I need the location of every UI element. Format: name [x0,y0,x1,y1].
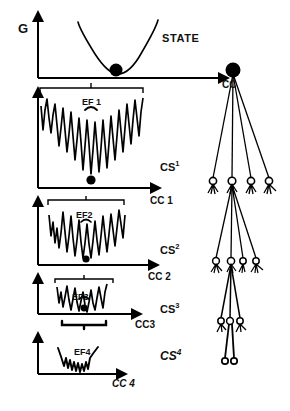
tree-node [227,318,234,325]
tree-node [208,177,218,194]
panel-3-span-bracket-bottom [62,321,106,329]
energy-label-ef4: EF4 [74,348,91,357]
tree-node [239,258,246,273]
panel-1-ef-arrow-icon [85,107,97,110]
panel-2-state-ball [82,255,89,262]
cs2-superscript: 2 [175,242,179,251]
y-axis-label-g: G [18,22,28,35]
tree-node [264,177,276,194]
x-axis-label-cc4: CC 4 [112,379,135,389]
x-axis-label-cc: CC [222,80,236,90]
energy-label-ef2: EF2 [76,211,93,220]
panel-3-state-ball [81,305,88,312]
substate-label-cs4: CS4 [160,349,181,362]
tree-edges-level-3 [225,324,234,358]
cs3-superscript: 3 [175,301,179,310]
tree-level-4-nodes [222,358,237,364]
tree-node [217,318,226,332]
cs2-base: CS [160,244,175,256]
x-axis-label-cc2: CC 2 [148,272,171,282]
panel-cs2 [38,196,150,265]
substate-label-cs2: CS2 [160,243,179,256]
tree-node [231,358,237,364]
panel-state-parabola [38,20,220,78]
tree-node [236,318,246,332]
energy-landscape-figure [0,0,290,411]
tree-root-node [226,63,241,78]
substate-label-cs3: CS3 [160,302,179,315]
panel-cs4 [38,341,118,374]
substate-tree [208,63,276,365]
x-axis-label-cc1: CC 1 [150,196,173,206]
tree-edges-level-2 [221,265,240,318]
energy-label-ef3: EF3 [72,293,89,302]
tree-node [251,258,263,273]
substate-label-cs1: CS1 [160,160,179,173]
panel-3-span-bracket-top [55,275,113,283]
panel-1-rugged-landscape [41,98,143,174]
tree-node [222,358,228,364]
panel-cs3 [38,275,133,329]
cs3-base: CS [160,303,175,315]
tree-node [246,177,256,194]
panel-1-state-ball [86,175,95,184]
tree-level-2-nodes [211,257,263,273]
cs1-base: CS [160,161,175,173]
cs4-superscript: 4 [177,348,182,357]
cs1-superscript: 1 [175,159,179,168]
tree-node [211,258,222,273]
panel-0-state-ball [110,64,123,77]
x-axis-label-cc3: CC3 [135,320,155,330]
panel-1-span-bracket [40,83,143,93]
tree-level-1-nodes [208,177,276,194]
cs4-base: CS [160,349,177,363]
panel-2-span-bracket [48,196,124,205]
tree-edges-level-1 [216,185,256,258]
energy-label-ef1: EF 1 [82,98,101,107]
state-label: STATE [162,33,199,44]
